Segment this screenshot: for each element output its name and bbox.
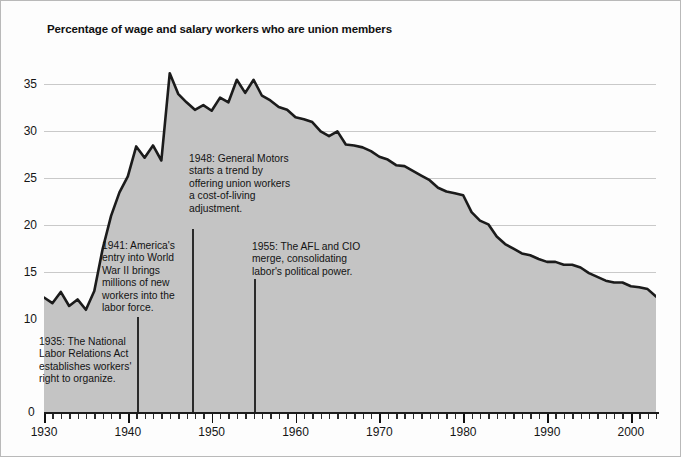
x-tick-1967 [354,414,355,419]
annotation-gm-cola-1948: 1948: General Motors starts a trend by o… [189,153,290,215]
x-tick-1951 [220,414,221,419]
x-tick-1952 [228,414,229,419]
chart-title: Percentage of wage and salary workers wh… [47,23,392,35]
x-tick-1992 [564,414,565,419]
x-tick-1981 [472,414,473,419]
x-tick-1972 [396,414,397,419]
x-tick-1985 [505,414,506,419]
x-tick-1938 [111,414,112,419]
y-axis-label-35: 35 [24,77,37,91]
x-tick-1947 [187,414,188,419]
x-tick-1949 [203,414,204,419]
x-tick-1998 [614,414,615,419]
x-tick-1955 [254,414,255,419]
x-tick-1970 [379,414,381,423]
x-tick-1977 [438,414,439,419]
annotation-wwii-1941: 1941: America's entry into World War II … [102,240,175,314]
x-tick-1932 [61,414,62,419]
x-tick-1935 [86,414,87,419]
x-tick-1987 [522,414,523,419]
y-axis-label-10: 10 [24,312,37,326]
x-tick-1980 [463,414,465,423]
x-tick-1991 [555,414,556,419]
x-axis-label-1980: 1980 [450,425,477,439]
x-tick-1993 [572,414,573,419]
x-tick-1931 [52,414,53,419]
x-tick-1953 [237,414,238,419]
annotation-marker-wwii-1941 [137,317,139,412]
x-tick-1979 [455,414,456,419]
annotation-marker-gm-cola-1948 [192,229,194,412]
x-axis-label-1950: 1950 [198,425,225,439]
chart-figure: Percentage of wage and salary workers wh… [0,0,681,457]
x-tick-1996 [597,414,598,419]
x-tick-1966 [346,414,347,419]
x-axis-label-1960: 1960 [282,425,309,439]
x-tick-1964 [329,414,330,419]
x-tick-1997 [606,414,607,419]
x-tick-1946 [178,414,179,419]
x-tick-1982 [480,414,481,419]
x-tick-2002 [648,414,649,419]
x-tick-1976 [430,414,431,419]
x-tick-2000 [631,414,633,423]
x-tick-2003 [656,414,657,419]
x-tick-1958 [279,414,280,419]
x-tick-1933 [69,414,70,419]
annotation-marker-afl-cio-1955 [254,279,256,412]
x-tick-1974 [413,414,414,419]
x-tick-1988 [530,414,531,419]
x-tick-1983 [488,414,489,419]
x-tick-1957 [270,414,271,419]
x-tick-1934 [78,414,79,419]
x-tick-1954 [245,414,246,419]
x-tick-1937 [103,414,104,419]
x-tick-1984 [497,414,498,419]
x-tick-1962 [312,414,313,419]
x-tick-1943 [153,414,154,419]
x-tick-1944 [161,414,162,419]
x-tick-1941 [136,414,137,419]
x-tick-1948 [195,414,196,419]
x-axis-label-1970: 1970 [366,425,393,439]
x-tick-1989 [539,414,540,419]
x-tick-1930 [44,414,46,423]
x-tick-1986 [513,414,514,419]
x-tick-1994 [581,414,582,419]
x-tick-1950 [212,414,214,423]
x-tick-1965 [337,414,338,419]
annotation-afl-cio-1955: 1955: The AFL and CIO merge, consolidati… [252,241,360,278]
x-tick-1945 [170,414,171,419]
x-tick-1990 [547,414,549,423]
x-tick-1975 [421,414,422,419]
x-tick-1939 [119,414,120,419]
x-tick-1971 [388,414,389,419]
x-tick-1999 [622,414,623,419]
x-axis-label-1990: 1990 [534,425,561,439]
y-axis-label-15: 15 [24,265,37,279]
x-tick-1940 [128,414,130,423]
x-tick-2001 [639,414,640,419]
x-tick-1959 [287,414,288,419]
x-tick-1969 [371,414,372,419]
x-tick-1960 [296,414,298,423]
x-tick-1942 [145,414,146,419]
x-tick-1936 [94,414,95,419]
x-tick-1968 [363,414,364,419]
y-axis-label-30: 30 [24,124,37,138]
x-tick-1973 [404,414,405,419]
x-axis-label-1930: 1930 [31,425,58,439]
x-tick-1995 [589,414,590,419]
plot-area: 101520253035 [44,61,656,413]
area-series [44,61,656,413]
y-axis-zero-label: 0 [28,405,35,419]
y-axis-label-20: 20 [24,218,37,232]
x-tick-1956 [262,414,263,419]
y-axis-label-25: 25 [24,171,37,185]
x-tick-1961 [304,414,305,419]
x-axis-label-2000: 2000 [617,425,644,439]
x-tick-1978 [446,414,447,419]
annotation-nlra-1935: 1935: The National Labor Relations Act e… [39,336,131,386]
x-tick-1963 [321,414,322,419]
x-axis: 19301940195019601970198019902000 [44,412,659,413]
